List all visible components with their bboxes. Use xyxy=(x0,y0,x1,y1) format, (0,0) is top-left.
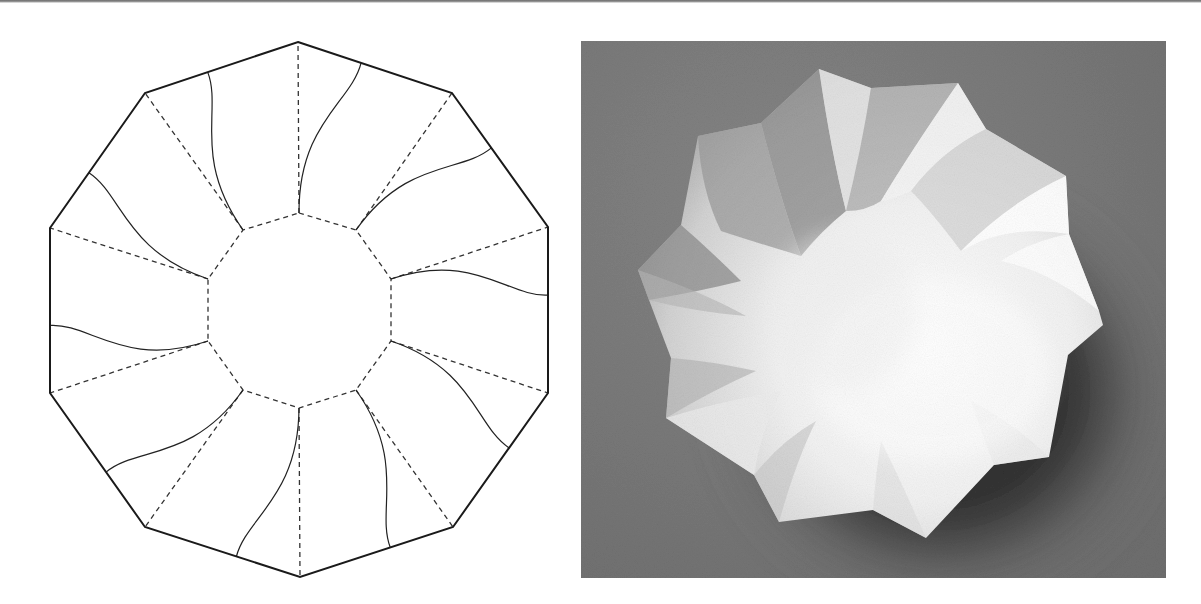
radial-valley-fold xyxy=(145,93,243,230)
curved-mountain-fold xyxy=(391,270,548,295)
radial-valley-fold xyxy=(299,408,300,577)
curved-mountain-fold xyxy=(391,341,509,448)
folded-bowl-photo xyxy=(581,41,1166,578)
curved-mountain-fold xyxy=(89,173,208,279)
crease-pattern-svg xyxy=(0,0,581,604)
radial-valley-fold xyxy=(50,228,208,279)
radial-valley-fold xyxy=(298,42,299,213)
curved-mountain-fold xyxy=(50,325,208,350)
folded-bowl-svg xyxy=(581,41,1166,578)
radial-valley-fold xyxy=(356,93,452,230)
inner-decagon-valley-folds xyxy=(208,213,391,408)
crease-pattern-diagram xyxy=(0,0,581,604)
curved-mountain-fold xyxy=(106,390,243,472)
curved-mountain-fold xyxy=(356,148,491,230)
curved-mountain-fold xyxy=(236,408,299,557)
curved-mountain-fold xyxy=(299,63,361,213)
radial-valley-fold xyxy=(391,341,548,393)
radial-valley-fold xyxy=(391,227,548,279)
radial-valley-fold xyxy=(50,341,208,393)
radial-valley-fold xyxy=(356,390,453,527)
radial-valley-fold xyxy=(145,390,243,527)
